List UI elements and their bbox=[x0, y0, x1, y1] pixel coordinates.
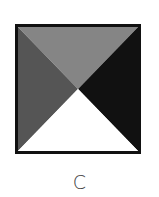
divided-square-figure bbox=[15, 24, 141, 154]
figure-label: C bbox=[0, 172, 159, 192]
square-diagram bbox=[15, 24, 141, 154]
